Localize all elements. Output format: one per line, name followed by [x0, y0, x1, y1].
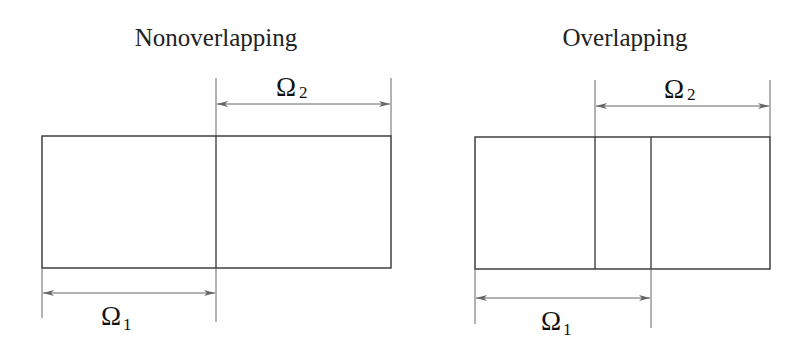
- omega2-dimension: Ω2: [595, 74, 770, 137]
- overlapping-title: Overlapping: [563, 24, 688, 51]
- omega1-label: Ω1: [541, 306, 572, 339]
- nonoverlapping-diagram: Nonoverlapping Ω2 Ω1: [42, 24, 391, 334]
- omega2-dimension: Ω2: [216, 72, 391, 136]
- domain-rectangle: [475, 137, 770, 269]
- omega2-label: Ω2: [276, 72, 308, 102]
- omega1-dimension: Ω1: [42, 268, 216, 334]
- omega1-dimension: Ω1: [475, 269, 651, 339]
- nonoverlapping-title: Nonoverlapping: [135, 24, 298, 51]
- omega2-label: Ω2: [664, 74, 696, 104]
- domain-decomposition-figure: Nonoverlapping Ω2 Ω1 Overlapping: [0, 0, 805, 354]
- omega1-label: Ω1: [101, 301, 132, 334]
- overlapping-diagram: Overlapping Ω2 Ω1: [475, 24, 770, 339]
